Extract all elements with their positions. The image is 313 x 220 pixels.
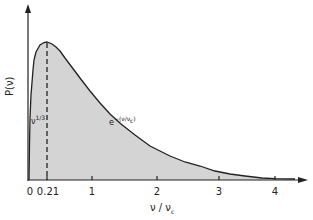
x-tick-label-1: 1: [89, 186, 95, 197]
power-law-annotation: ν1/3: [31, 114, 45, 126]
synchrotron-spectrum-chart: 0 0.21 1 2 3 4 P(ν) ν / νc ν1/3 e−(ν/νc): [0, 0, 313, 220]
x-axis-label: ν / νc: [150, 202, 174, 215]
y-axis-arrow-icon: [25, 4, 31, 13]
x-tick-label-2: 2: [154, 186, 160, 197]
x-tick-label-0: 0: [27, 186, 33, 197]
y-axis-label: P(ν): [4, 77, 15, 96]
x-tick-label-0.21: 0.21: [37, 186, 59, 197]
x-axis-arrow-icon: [298, 177, 308, 183]
exponential-cutoff-annotation: e−(ν/νc): [109, 115, 136, 127]
x-tick-label-4: 4: [272, 186, 278, 197]
x-tick-label-3: 3: [216, 186, 222, 197]
